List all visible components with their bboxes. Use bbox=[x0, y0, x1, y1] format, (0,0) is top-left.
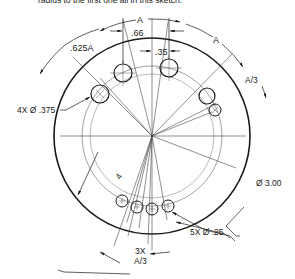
dim-A3-bottom: A/3 bbox=[134, 256, 147, 266]
callout-large-holes: 4X Ø .375 bbox=[17, 105, 56, 115]
small-hole-marks bbox=[119, 107, 218, 212]
small-holes bbox=[116, 104, 221, 215]
dim-A-top: A bbox=[137, 15, 143, 25]
dim-66: .66 bbox=[131, 28, 144, 38]
dim-A3-right: A/3 bbox=[245, 75, 258, 85]
large-hole-4 bbox=[199, 88, 215, 104]
dim-3X: 3X bbox=[135, 246, 146, 256]
dim-625A: .625A bbox=[70, 43, 94, 53]
dim-radius-4: 4 bbox=[113, 172, 124, 182]
callout-outer-diameter: Ø 3.00 bbox=[256, 178, 282, 188]
dimension-arcs bbox=[40, 19, 266, 98]
dim-35: .35 bbox=[155, 47, 168, 57]
callout-small-holes: 5X Ø .25 bbox=[190, 227, 224, 237]
dim-A-right: A bbox=[213, 35, 219, 45]
technical-drawing: A A .625A .66 .35 A/3 4 4X Ø .375 Ø 3.00… bbox=[0, 0, 295, 279]
leader-lines bbox=[58, 97, 244, 274]
